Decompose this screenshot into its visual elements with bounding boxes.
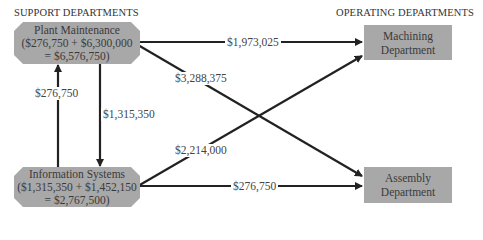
flow-label-pm-machining: $1,973,025 <box>225 36 281 49</box>
information-systems-name: Information Systems <box>14 168 140 181</box>
flow-label-pm-assembly: $3,288,375 <box>173 72 229 85</box>
arrow-pm-to-assembly <box>138 45 362 176</box>
machining-department-box: Machining Department <box>364 25 452 60</box>
plant-maintenance-box: Plant Maintenance ($276,750 + $6,300,000… <box>14 22 140 64</box>
flow-label-is-machining: $2,214,000 <box>173 144 229 157</box>
machining-label: Machining <box>364 29 452 43</box>
assembly-department-box: Assembly Department <box>364 167 452 203</box>
flow-label-is-assembly: $276,750 <box>231 180 278 193</box>
information-systems-box: Information Systems ($1,315,350 + $1,452… <box>14 167 140 207</box>
flow-label-is-pm: $276,750 <box>33 87 80 100</box>
assembly-label: Assembly <box>364 171 452 185</box>
information-systems-total: = $2,767,500) <box>14 194 140 207</box>
assembly-dept-label: Department <box>364 185 452 199</box>
flow-label-pm-is: $1,315,350 <box>101 108 157 121</box>
plant-maintenance-name: Plant Maintenance <box>14 24 140 37</box>
plant-maintenance-total: = $6,576,750) <box>14 50 140 63</box>
information-systems-calc: ($1,315,350 + $1,452,150 <box>14 181 140 194</box>
arrow-is-to-machining <box>138 56 362 186</box>
machining-dept-label: Department <box>364 43 452 57</box>
plant-maintenance-calc: ($276,750 + $6,300,000 <box>14 37 140 50</box>
